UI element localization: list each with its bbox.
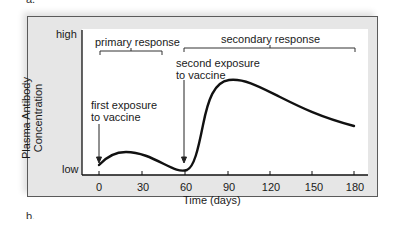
y-low-label: low [62, 163, 79, 175]
x-tick-120: 120 [262, 181, 280, 193]
second-exposure-line1: second exposure [176, 57, 260, 69]
x-tick-180: 180 [346, 181, 364, 193]
x-tick-90: 90 [223, 181, 235, 193]
y-axis-label-line1: Plasma Antibody [20, 77, 32, 159]
y-axis-label: Plasma Antibody Concentration [20, 77, 44, 159]
secondary-response-label: secondary response [221, 33, 320, 45]
antibody-curve [99, 80, 354, 171]
second-exposure-line2: to vaccine [176, 69, 260, 81]
first-exposure-line2: to vaccine [91, 111, 157, 123]
secondary-response-bracket [184, 45, 355, 52]
first-exposure-arrow [97, 124, 102, 163]
first-exposure-line1: first exposure [91, 99, 157, 111]
x-tick-30: 30 [137, 181, 149, 193]
panel-label-b: b. [26, 210, 35, 219]
second-exposure-arrow [182, 80, 187, 163]
y-axis-label-line2: Concentration [32, 77, 44, 159]
first-exposure-label: first exposure to vaccine [91, 99, 157, 123]
primary-response-label: primary response [95, 36, 180, 48]
y-high-label: high [56, 28, 77, 40]
primary-response-bracket [100, 48, 162, 55]
second-exposure-label: second exposure to vaccine [176, 57, 260, 81]
x-tick-150: 150 [305, 181, 323, 193]
x-tick-0: 0 [96, 181, 102, 193]
x-tick-60: 60 [180, 181, 192, 193]
x-axis-label: Time (days) [183, 194, 241, 206]
